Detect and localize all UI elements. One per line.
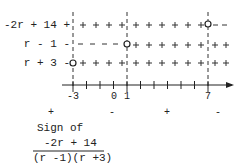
row-label-factor-r-minus-1: r - 1 - [0, 38, 70, 50]
arrow-head-icon [226, 82, 234, 88]
tick-label-7: 7 [200, 92, 216, 102]
row2-signs [78, 42, 229, 48]
caption-sign-of: Sign of [37, 122, 83, 135]
plus-marks [133, 42, 229, 48]
tick-label-neg3: -3 [65, 92, 81, 102]
open-circle-zero-1 [124, 41, 130, 47]
open-circle-zero-7 [205, 21, 211, 27]
tick-label-1: 1 [119, 92, 135, 102]
row-label-numerator-factor: -2r + 14 + [0, 19, 70, 31]
caption-numerator: -2r + 14 [44, 137, 97, 150]
result-sign-interval-1: + [46, 108, 56, 118]
caption-denominator: (r -1)(r +3) [33, 152, 112, 165]
result-sign-interval-2: - [107, 108, 117, 118]
result-sign-interval-3: + [162, 108, 172, 118]
row-label-factor-r-plus-3: r + 3 - [0, 57, 70, 69]
plus-marks [80, 22, 204, 28]
result-sign-interval-4: - [213, 108, 223, 118]
row3-signs [80, 60, 229, 66]
open-circle-zero-neg3 [70, 60, 76, 66]
